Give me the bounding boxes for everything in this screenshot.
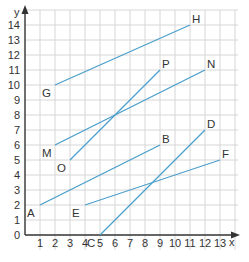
y-tick-label: 1 <box>14 214 20 226</box>
point-labels: GHMNOPABEFCD <box>27 13 229 249</box>
point-label-o: O <box>57 162 66 174</box>
x-tick-label: 10 <box>169 237 181 249</box>
point-label-e: E <box>72 207 80 219</box>
y-tick-label: 8 <box>14 109 20 121</box>
point-label-g: G <box>42 87 51 99</box>
x-axis-label: x <box>229 236 235 248</box>
y-tick-label: 14 <box>8 19 20 31</box>
point-label-f: F <box>222 148 229 160</box>
y-tick-label: 4 <box>14 169 20 181</box>
y-tick-label: 5 <box>14 154 20 166</box>
x-tick-label: 13 <box>214 237 226 249</box>
x-tick-label: 6 <box>112 237 118 249</box>
x-tick-label: 5 <box>97 237 103 249</box>
y-tick-label: 9 <box>14 94 20 106</box>
x-tick-label: 9 <box>157 237 163 249</box>
x-tick-label: 11 <box>184 237 195 249</box>
y-axis-label: y <box>14 6 20 18</box>
y-tick-label: 6 <box>14 139 20 151</box>
x-tick-label: 3 <box>67 237 73 249</box>
y-tick-label: 13 <box>8 34 20 46</box>
point-label-b: B <box>162 133 170 145</box>
x-tick-label: 7 <box>127 237 133 249</box>
point-label-c: C <box>87 237 95 249</box>
y-tick-label: 2 <box>14 199 20 211</box>
y-tick-label: 10 <box>8 79 20 91</box>
point-label-m: M <box>42 147 52 159</box>
point-label-h: H <box>192 13 200 25</box>
y-tick-label: 11 <box>9 64 20 76</box>
coordinate-grid: x y 123456789101112130123456789101112131… <box>0 0 249 262</box>
y-tick-label: 3 <box>14 184 20 196</box>
x-tick-label: 12 <box>199 237 211 249</box>
y-tick-label: 0 <box>14 229 20 241</box>
segment-cd <box>100 130 205 235</box>
tick-labels: 1234567891011121301234567891011121314 <box>8 19 226 249</box>
x-tick-label: 2 <box>52 237 58 249</box>
point-label-a: A <box>27 207 35 219</box>
point-label-n: N <box>207 58 215 70</box>
point-label-d: D <box>207 118 215 130</box>
point-label-p: P <box>162 58 170 70</box>
y-tick-label: 7 <box>14 124 20 136</box>
x-tick-label: 1 <box>37 237 43 249</box>
y-tick-label: 12 <box>8 49 20 61</box>
grid-lines <box>25 10 238 250</box>
x-tick-label: 8 <box>142 237 148 249</box>
